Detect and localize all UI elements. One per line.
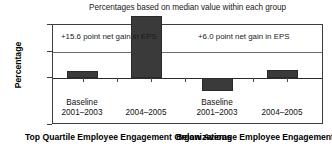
bar-chart: Percentages based on median value within… [0, 0, 332, 162]
bar-group1-baseline [202, 78, 233, 91]
bar-group0-2004-2005 [131, 16, 162, 78]
y-tick-mark-minus10 [47, 124, 52, 125]
x-category-group1-2004-2005: 2004–2005 [243, 108, 321, 118]
x-tick-6 [287, 78, 288, 82]
bar-group1-2004-2005 [267, 70, 298, 78]
annotation-top-quartile: +15.6 point net gain in EPS [61, 32, 157, 42]
group-label-below-average: Below Average Employee Engagement Organi… [176, 132, 332, 143]
x-tick-0 [83, 78, 84, 82]
zero-axis-line [53, 78, 322, 79]
bar-group0-baseline [67, 71, 98, 78]
gridline-10 [53, 52, 322, 53]
chart-title: Percentages based on median value within… [52, 3, 323, 13]
x-tick-1 [117, 78, 118, 82]
annotation-below-average: +6.0 point net gain in EPS [198, 32, 302, 42]
group-label-top-quartile: Top Quartile Employee Engagement Organiz… [25, 132, 185, 143]
x-tick-2 [151, 78, 152, 82]
x-tick-3 [185, 78, 186, 82]
x-tick-5 [253, 78, 254, 82]
y-axis-label: Percentage [13, 25, 23, 105]
x-category-group0-2004-2005: 2004–2005 [107, 108, 185, 118]
